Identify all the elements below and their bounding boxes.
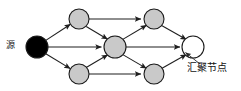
- relay-node-center[interactable]: [104, 36, 126, 58]
- relay-node-bottom-left[interactable]: [69, 64, 89, 84]
- relay-node-bottom-right[interactable]: [144, 64, 164, 84]
- sink-node[interactable]: [182, 36, 204, 58]
- edge-source-to-relay-top-left: [46, 24, 71, 40]
- source-node-label: 源: [6, 41, 15, 50]
- edge-relay-center-to-relay-bottom-right: [123, 55, 147, 69]
- sink-node-label: 汇聚节点: [187, 63, 227, 73]
- diagram-canvas: 源 汇聚节点: [0, 0, 241, 91]
- edge-relay-top-left-to-relay-center: [86, 27, 107, 40]
- edge-relay-bottom-right-to-sink: [162, 55, 187, 69]
- source-node[interactable]: [26, 36, 48, 58]
- edge-relay-center-to-relay-top-right: [123, 25, 147, 39]
- relay-node-top-right[interactable]: [144, 9, 164, 29]
- graph-svg: [0, 0, 241, 91]
- relay-node-top-left[interactable]: [69, 9, 89, 29]
- edge-source-to-relay-bottom-left: [46, 54, 71, 69]
- edge-relay-bottom-left-to-relay-center: [86, 55, 108, 68]
- edge-relay-top-right-to-sink: [162, 25, 187, 39]
